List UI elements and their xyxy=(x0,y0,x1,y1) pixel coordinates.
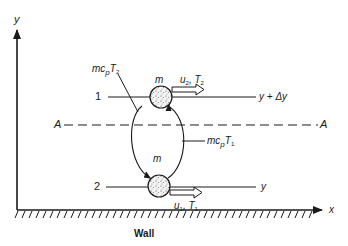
level-1-index: 1 xyxy=(95,91,101,102)
particle-lower-mass-label: m xyxy=(153,154,161,164)
energy-flux-upper-label: mcpT2 xyxy=(92,64,119,77)
level-2-index: 2 xyxy=(94,181,100,192)
particle-upper xyxy=(150,86,172,108)
level-1-coordinate-label: y + Δy xyxy=(259,92,287,102)
x-axis-label: x xyxy=(329,205,334,215)
level-2-coordinate-label: y xyxy=(261,182,266,192)
wall-hatching xyxy=(15,211,312,218)
velocity-temp-upper-label: u2, T2 xyxy=(180,75,204,86)
plane-label-left: A xyxy=(54,119,61,130)
particle-lower xyxy=(148,175,170,197)
plane-label-right: A xyxy=(320,119,327,130)
velocity-temp-lower-label: u1, T1 xyxy=(174,201,198,212)
particle-upper-mass-label: m xyxy=(155,75,163,85)
y-axis-label: y xyxy=(14,14,20,25)
exchange-loop xyxy=(132,105,184,178)
energy-flux-lower-label: mcpT1 xyxy=(207,136,234,149)
velocity-arrow-lower xyxy=(170,187,202,198)
flux-upper-leader xyxy=(118,74,138,112)
wall-label: Wall xyxy=(134,229,154,239)
x-axis-wall xyxy=(15,210,322,218)
